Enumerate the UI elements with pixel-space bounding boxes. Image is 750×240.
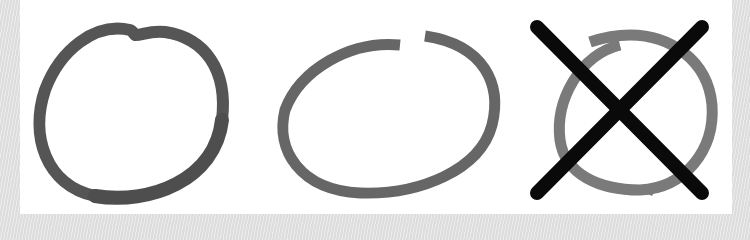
marks-canvas [0, 0, 750, 223]
circle-closed-icon [39, 29, 222, 198]
circle-open-icon [283, 36, 495, 193]
